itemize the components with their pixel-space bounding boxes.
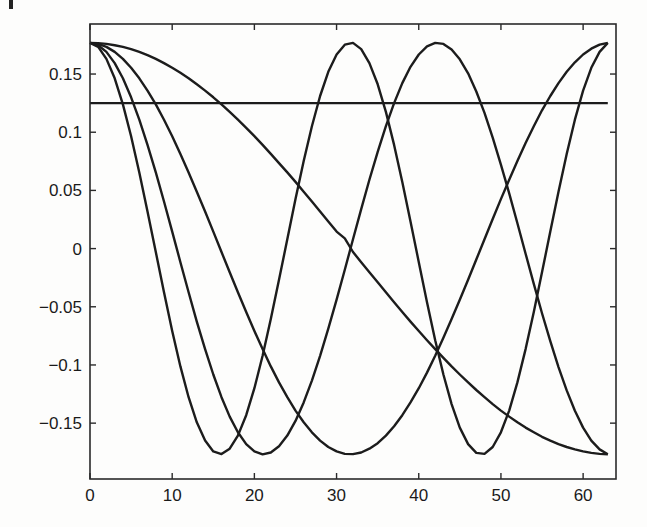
x-tick-label: 60	[574, 486, 593, 505]
x-tick-label: 30	[327, 486, 346, 505]
y-tick-label: 0.15	[49, 65, 82, 84]
y-tick-label: −0.05	[39, 298, 82, 317]
y-axis-ticks: 0.150.10.050−0.05−0.1−0.15	[39, 65, 616, 433]
x-tick-label: 40	[409, 486, 428, 505]
y-tick-label: −0.1	[48, 356, 82, 375]
series-line-k4	[90, 43, 608, 454]
x-tick-label: 10	[163, 486, 182, 505]
y-tick-label: 0.05	[49, 181, 82, 200]
y-tick-label: 0	[73, 240, 82, 259]
y-tick-label: 0.1	[58, 123, 82, 142]
x-tick-label: 50	[491, 486, 510, 505]
page: 0102030405060 0.150.10.050−0.05−0.1−0.15	[0, 0, 647, 527]
series-line-k2	[90, 43, 608, 454]
line-chart: 0102030405060 0.150.10.050−0.05−0.1−0.15	[0, 0, 647, 527]
series-line-k1	[90, 43, 608, 454]
x-tick-label: 0	[85, 486, 94, 505]
x-axis-ticks: 0102030405060	[85, 24, 592, 505]
series-layer	[90, 43, 608, 454]
x-tick-label: 20	[245, 486, 264, 505]
series-line-k3	[90, 43, 608, 454]
y-tick-label: −0.15	[39, 414, 82, 433]
